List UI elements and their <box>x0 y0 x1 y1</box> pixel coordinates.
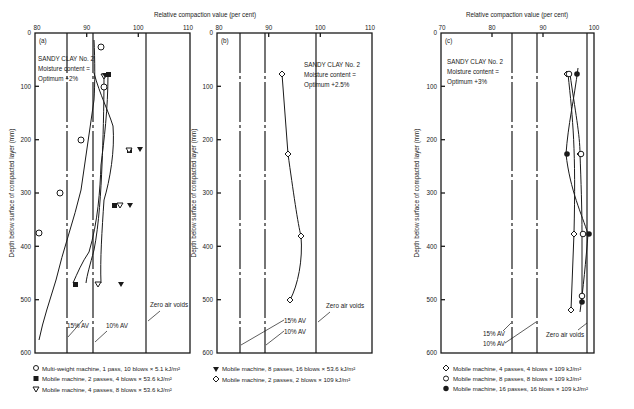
curve-mobile-16pass-109 <box>566 68 588 312</box>
legend-item: Mobile machine, 4 passes, 8 blows × 53.6… <box>42 386 172 393</box>
y-tick-label: 0 <box>209 29 213 36</box>
legend-c: Mobile machine, 4 passes, 4 blows × 109 … <box>443 365 588 393</box>
ref-label-zero-c: Zero air voids <box>546 331 584 338</box>
moisture-line2-c: Optimum +3% <box>447 78 487 86</box>
legend-filled-square-icon <box>34 376 39 381</box>
y-tick-label: 0 <box>433 29 437 36</box>
compaction-figure: Relative compaction value (per cent) Rel… <box>0 0 634 409</box>
y-tick-label: 500 <box>202 296 213 303</box>
x-axis-title-c: Relative compaction value (per cent) <box>466 11 568 19</box>
y-tick-label: 200 <box>202 136 213 143</box>
curve-mobile-2pass-53 <box>73 73 108 283</box>
moisture-line1-b: Moisture content = <box>304 71 356 78</box>
y-tick-label: 600 <box>202 349 213 356</box>
y-tick-label: 600 <box>426 349 437 356</box>
curve-mobile-2pass-109 <box>282 74 301 300</box>
moisture-line2-b: Optimum +2.5% <box>304 81 350 89</box>
y-tick-label: 100 <box>20 83 31 90</box>
ref-label-10av-a: 10% AV <box>106 322 129 329</box>
markers-mobile-8pass-109 <box>566 71 586 299</box>
legend-open-diamond-icon <box>443 365 449 371</box>
y-axis-title-c: Depth below surface of compacted layer (… <box>413 129 421 258</box>
legend-item: Mobile machine, 8 passes, 16 blows × 53.… <box>222 365 355 372</box>
legend-item: Mobile machine, 16 passes, 16 blows × 10… <box>453 385 588 392</box>
y-tick-label: 500 <box>426 296 437 303</box>
markers-mobile-2pass-53 <box>73 72 132 287</box>
y-tick-label: 300 <box>426 189 437 196</box>
moisture-line1-c: Moisture content = <box>447 68 499 75</box>
y-tick-label: 400 <box>202 243 213 250</box>
x-ticks-c: 70 80 90 100 <box>438 24 599 37</box>
panel-a: 80 90 100 110 0 100 200 300 400 500 600 … <box>8 24 194 393</box>
y-tick-label: 500 <box>20 296 31 303</box>
x-tick-label: 80 <box>215 24 223 31</box>
panel-b: 80 90 100 110 0 100 200 300 400 500 600 … <box>190 24 376 383</box>
y-axis-title-b: Depth below surface of compacted layer (… <box>190 129 198 258</box>
y-tick-label: 300 <box>20 189 31 196</box>
y-tick-label: 300 <box>202 189 213 196</box>
legend-open-triangle-icon <box>33 387 39 392</box>
x-tick-label: 100 <box>315 24 326 31</box>
markers-multi-weight <box>36 44 107 236</box>
y-tick-label: 0 <box>27 29 31 36</box>
markers-mobile-8pass-53 <box>102 73 143 287</box>
x-tick-label: 110 <box>365 24 376 31</box>
x-axis-title-ab: Relative compaction value (per cent) <box>154 11 256 19</box>
ref-label-zero-b: Zero air voids <box>326 302 364 309</box>
legend-filled-triangle-icon <box>213 367 219 372</box>
x-tick-label: 80 <box>33 24 41 31</box>
legend-open-circle-icon <box>34 366 39 371</box>
panel-label-c: (c) <box>445 37 452 45</box>
legend-item: Mobile machine, 8 passes, 8 blows × 109 … <box>453 375 581 382</box>
y-tick-label: 200 <box>20 136 31 143</box>
x-tick-label: 90 <box>265 24 273 31</box>
y-axis-title-a: Depth below surface of compacted layer (… <box>8 129 16 258</box>
y-tick-label: 100 <box>426 83 437 90</box>
x-tick-label: 70 <box>438 24 446 31</box>
x-tick-label: 90 <box>83 24 91 31</box>
soil-title-c: SANDY CLAY No. 2 <box>447 58 503 65</box>
legend-b: Mobile machine, 8 passes, 16 blows × 53.… <box>213 365 355 383</box>
y-tick-label: 400 <box>20 243 31 250</box>
legend-open-diamond-icon <box>213 376 219 382</box>
y-tick-label: 600 <box>20 349 31 356</box>
x-tick-label: 100 <box>589 24 600 31</box>
panel-label-a: (a) <box>39 37 47 45</box>
legend-item: Multi-weight machine, 1 pass, 10 blows ×… <box>42 365 180 372</box>
x-tick-label: 90 <box>539 24 547 31</box>
ref-label-15av-c: 15% AV <box>483 330 506 337</box>
y-ticks-a: 0 100 200 300 400 500 600 <box>20 29 39 356</box>
y-tick-label: 400 <box>426 243 437 250</box>
legend-item: Mobile machine, 2 passes, 4 blows × 53.6… <box>42 375 172 382</box>
legend-item: Mobile machine, 4 passes, 4 blows × 109 … <box>453 365 581 372</box>
panel-c: 70 80 90 100 0 100 200 300 400 500 600 D… <box>413 24 600 392</box>
x-ticks-a: 80 90 100 110 <box>33 24 193 37</box>
x-tick-label: 80 <box>488 24 496 31</box>
soil-title-a: SANDY CLAY No. 2 <box>38 55 94 62</box>
moisture-line2-a: Optimum +2% <box>38 75 78 83</box>
ref-label-zero-a: Zero air voids <box>150 301 188 308</box>
ref-label-10av-c: 10% AV <box>483 340 506 347</box>
moisture-line1-a: Moisture content = <box>38 65 90 72</box>
y-tick-label: 100 <box>202 83 213 90</box>
x-tick-label: 100 <box>133 24 144 31</box>
panel-label-b: (b) <box>221 37 229 45</box>
y-ticks-c: 0 100 200 300 400 500 600 <box>426 29 445 356</box>
y-ticks-b: 0 100 200 300 400 500 600 <box>202 29 221 356</box>
legend-filled-circle-icon <box>443 386 448 391</box>
ref-label-15av-b: 15% AV <box>284 317 307 324</box>
markers-mobile-16pass-109 <box>564 71 592 305</box>
soil-title-b: SANDY CLAY No. 2 <box>304 61 360 68</box>
legend-open-circle-icon <box>444 376 449 381</box>
ref-label-10av-b: 10% AV <box>284 328 307 335</box>
x-tick-label: 110 <box>183 24 194 31</box>
legend-item: Mobile machine, 2 passes, 2 blows × 109 … <box>222 376 350 383</box>
legend-a: Multi-weight machine, 1 pass, 10 blows ×… <box>33 365 180 393</box>
y-tick-label: 200 <box>426 136 437 143</box>
